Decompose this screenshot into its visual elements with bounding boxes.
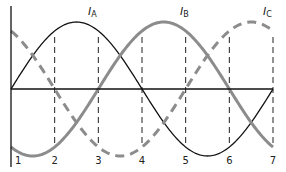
x-tick-2: 2 (51, 155, 57, 166)
vertical-gridlines (55, 37, 273, 145)
x-tick-3: 3 (95, 155, 101, 166)
three-phase-current-diagram: 1234567 IAIBIC (0, 0, 286, 172)
x-tick-5: 5 (182, 155, 188, 166)
x-tick-7: 7 (270, 155, 276, 166)
label-ia: IA (88, 5, 97, 19)
x-tick-4: 4 (139, 155, 145, 166)
x-tick-labels: 1234567 (15, 155, 276, 166)
x-tick-1: 1 (15, 155, 21, 166)
x-tick-6: 6 (226, 155, 232, 166)
curve-labels: IAIBIC (88, 5, 272, 19)
label-ic: IC (263, 5, 272, 19)
label-ib: IB (180, 5, 189, 19)
